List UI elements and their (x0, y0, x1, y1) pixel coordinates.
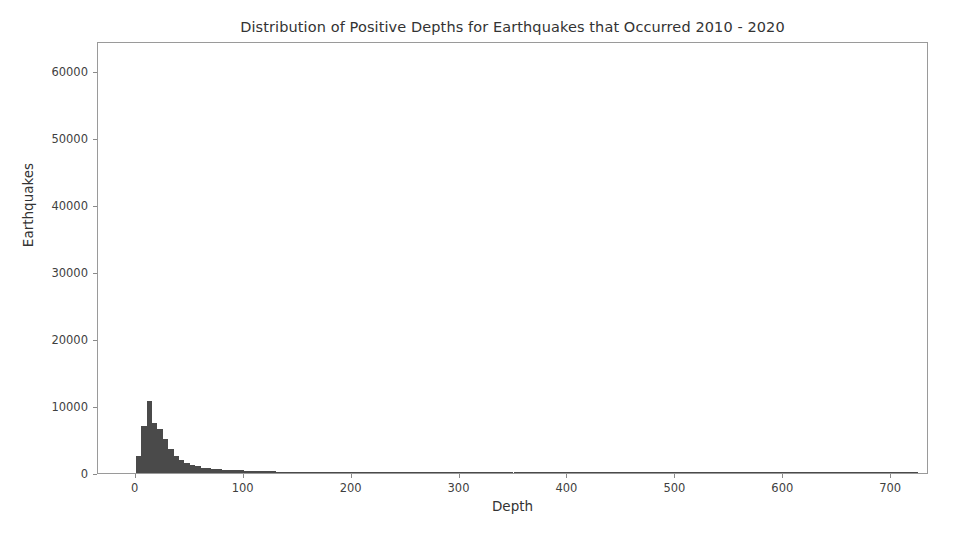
figure-canvas: Distribution of Positive Depths for Eart… (0, 0, 962, 534)
x-axis-tick (566, 474, 567, 478)
x-axis-tick (351, 474, 352, 478)
histogram-bar (913, 472, 918, 473)
x-axis-tick-label: 400 (536, 481, 596, 495)
x-axis-label: Depth (97, 498, 928, 514)
chart-title: Distribution of Positive Depths for Eart… (97, 19, 928, 35)
y-axis-tick-label: 0 (26, 467, 88, 481)
x-axis-tick-label: 200 (321, 481, 381, 495)
y-axis-tick-label: 50000 (26, 132, 88, 146)
y-axis-tick-label: 60000 (26, 65, 88, 79)
y-axis-tick-label: 20000 (26, 333, 88, 347)
y-axis-tick (93, 474, 97, 475)
y-axis-tick-label: 40000 (26, 199, 88, 213)
x-axis-tick-label: 600 (752, 481, 812, 495)
x-axis-tick (459, 474, 460, 478)
x-axis-tick (782, 474, 783, 478)
x-axis-tick (243, 474, 244, 478)
x-axis-tick-label: 500 (644, 481, 704, 495)
x-axis-tick-label: 0 (105, 481, 165, 495)
x-axis-tick (890, 474, 891, 478)
y-axis-tick-label: 30000 (26, 266, 88, 280)
y-axis-tick-label: 10000 (26, 400, 88, 414)
histogram-bars (98, 43, 927, 473)
plot-area (97, 42, 928, 474)
x-axis-tick-label: 700 (860, 481, 920, 495)
x-axis-tick (674, 474, 675, 478)
x-axis-tick-label: 100 (213, 481, 273, 495)
x-axis-tick (135, 474, 136, 478)
x-axis-tick-label: 300 (429, 481, 489, 495)
